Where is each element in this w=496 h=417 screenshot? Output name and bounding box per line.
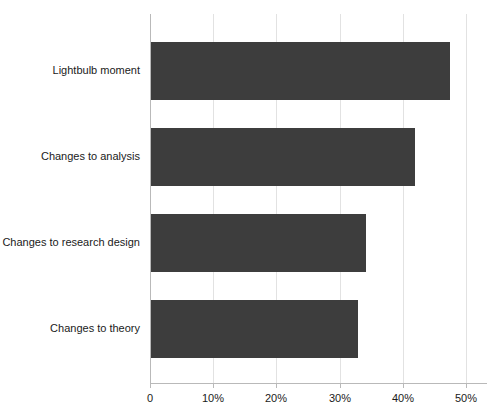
ytick-row-3: Changes to theory — [0, 322, 150, 335]
xtick-mark-0 — [150, 383, 151, 388]
ytick-label-lightbulb-moment: Lightbulb moment — [53, 64, 140, 77]
xtick-label-50: 50% — [455, 392, 477, 405]
bar-changes-to-analysis — [150, 128, 415, 186]
xtick-mark-40 — [403, 383, 404, 388]
ytick-row-0: Lightbulb moment — [0, 64, 150, 77]
xtick-label-0: 0 — [147, 392, 153, 405]
ytick-label-changes-to-research-design: Changes to research design — [2, 236, 140, 249]
xtick-mark-50 — [466, 383, 467, 388]
bar-chart: 0 10% 20% 30% 40% 50% Lightbulb moment C… — [0, 0, 496, 417]
ytick-row-1: Changes to analysis — [0, 150, 150, 163]
xtick-label-10: 10% — [202, 392, 224, 405]
xtick-label-30: 30% — [329, 392, 351, 405]
xtick-mark-10 — [213, 383, 214, 388]
ytick-label-changes-to-theory: Changes to theory — [50, 322, 140, 335]
xtick-mark-20 — [276, 383, 277, 388]
xtick-label-20: 20% — [265, 392, 287, 405]
ytick-label-changes-to-analysis: Changes to analysis — [41, 150, 140, 163]
ytick-row-2: Changes to research design — [0, 236, 150, 249]
plot-area — [150, 14, 466, 383]
xtick-mark-30 — [340, 383, 341, 388]
bar-changes-to-theory — [150, 300, 358, 358]
bar-lightbulb-moment — [150, 42, 450, 100]
x-axis-line — [150, 383, 487, 384]
xtick-label-40: 40% — [392, 392, 414, 405]
y-axis-line — [150, 14, 151, 383]
bar-changes-to-research-design — [150, 214, 366, 272]
gridline-50 — [466, 14, 467, 383]
